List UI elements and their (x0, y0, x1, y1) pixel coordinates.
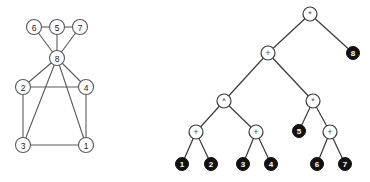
tree-edge (268, 14, 310, 53)
tree-operator-label: + (193, 127, 198, 137)
graph-edge-layer (23, 27, 86, 145)
graph-node-label: 6 (32, 23, 37, 33)
tree-leaf-node[interactable]: 2 (205, 158, 218, 171)
graph-node-label: 3 (21, 141, 26, 151)
graph-edge (57, 58, 86, 145)
tree-operator-node[interactable]: + (249, 125, 263, 139)
tree-leaf-node[interactable]: 7 (339, 158, 352, 171)
graph-node[interactable]: 1 (79, 138, 94, 153)
tree-operator-node[interactable]: * (217, 94, 231, 108)
tree-leaf-node[interactable]: 4 (265, 158, 278, 171)
graph-node[interactable]: 8 (50, 51, 65, 66)
tree-operator-node[interactable]: * (306, 94, 320, 108)
graph-node-label: 7 (78, 23, 83, 33)
tree-operator-node[interactable]: + (261, 46, 275, 60)
tree-leaf-label: 1 (180, 160, 185, 169)
tree-leaf-node[interactable]: 5 (293, 125, 306, 138)
graph-node[interactable]: 4 (79, 80, 94, 95)
tree-leaf-label: 2 (209, 160, 214, 169)
tree-leaf-label: 4 (269, 160, 274, 169)
tree-operator-label: + (327, 127, 332, 137)
tree-leaf-label: 5 (297, 127, 302, 136)
graph-node[interactable]: 7 (73, 20, 88, 35)
tree-operator-node[interactable]: + (189, 125, 203, 139)
tree-operator-label: * (311, 96, 315, 106)
figure-canvas: 65782431 *+8**++5+123467 (0, 0, 370, 182)
tree-operator-label: + (253, 127, 258, 137)
tree-leaf-label: 8 (351, 49, 356, 58)
tree-leaf-label: 6 (315, 160, 320, 169)
tree-operator-label: * (222, 96, 226, 106)
graph-node-label: 5 (55, 23, 60, 33)
tree-edge-layer (182, 14, 353, 164)
graph-node[interactable]: 3 (16, 138, 31, 153)
graph-node[interactable]: 6 (27, 20, 42, 35)
tree-edge (224, 53, 268, 101)
tree-operator-label: + (265, 48, 270, 58)
graph-node[interactable]: 5 (50, 20, 65, 35)
tree-leaf-node[interactable]: 8 (347, 47, 360, 60)
tree-leaf-node[interactable]: 6 (311, 158, 324, 171)
tree-leaf-label: 7 (343, 160, 348, 169)
tree-operator-label: * (308, 9, 312, 19)
tree-operator-node[interactable]: * (303, 7, 317, 21)
graph-node-label: 2 (21, 83, 26, 93)
graph-node-label: 8 (55, 54, 60, 64)
graph-node-label: 4 (84, 83, 89, 93)
tree-leaf-node[interactable]: 1 (176, 158, 189, 171)
tree-edge (310, 14, 353, 53)
graph-node-label: 1 (84, 141, 89, 151)
tree-operator-node[interactable]: + (323, 125, 337, 139)
graph-node[interactable]: 2 (16, 80, 31, 95)
tree-leaf-node[interactable]: 3 (237, 158, 250, 171)
tree-leaf-label: 3 (241, 160, 246, 169)
tree-edge (268, 53, 313, 101)
graph-edge (23, 58, 57, 145)
